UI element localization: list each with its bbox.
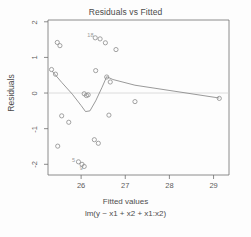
- x-tick-label: 26: [77, 181, 85, 190]
- point-label: 5: [72, 157, 75, 163]
- loess-smoother-line: [52, 71, 219, 112]
- data-points: [49, 36, 221, 169]
- x-axis-title: Fitted values: [0, 197, 251, 206]
- y-tick-label: 0: [30, 87, 39, 101]
- y-axis-title: Residuals: [6, 58, 16, 128]
- x-tick-label: 29: [209, 181, 217, 190]
- point-label: 9: [80, 165, 83, 171]
- y-tick-label: -2: [30, 158, 39, 172]
- residuals-vs-fitted-plot: Residuals vs Fitted Residuals Fitted val…: [0, 0, 251, 237]
- model-formula-subtitle: lm(y ~ x1 + x2 + x1:x2): [0, 209, 251, 218]
- x-tick-label: 27: [121, 181, 129, 190]
- y-tick-label: -1: [30, 122, 39, 136]
- tick-marks: [44, 22, 214, 179]
- y-tick-label: 1: [30, 51, 39, 65]
- point-label: 18: [87, 32, 93, 38]
- y-tick-label: 2: [30, 15, 39, 29]
- x-tick-label: 28: [165, 181, 173, 190]
